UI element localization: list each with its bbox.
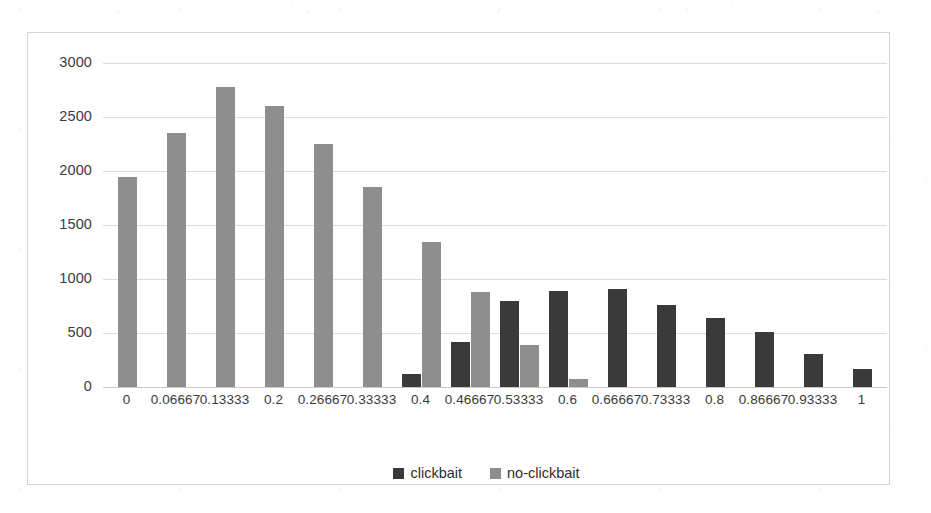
plot-area [103,63,887,387]
bar-clickbait [608,289,627,387]
y-axis-tick-label: 500 [68,324,93,340]
bar-clickbait [500,301,519,387]
x-axis-tick-label: 0.66667 [592,392,642,407]
bar-group [495,63,544,387]
x-axis-tick-label: 0.06667 [151,392,201,407]
x-axis-tick-label: 0.46667 [445,392,495,407]
x-axis-tick-labels: 00.066670.133330.20.266670.333330.40.466… [102,392,886,414]
bar-group [250,63,299,387]
bar-clickbait [451,342,470,387]
chart-legend: clickbaitno-clickbait [55,465,918,481]
y-axis-tick-label: 3000 [59,54,92,70]
bar-group [397,63,446,387]
x-axis-tick-label: 0.33333 [347,392,397,407]
x-axis-tick-label: 0.13333 [200,392,250,407]
y-axis-tick-label: 2000 [59,162,92,178]
bar-group [152,63,201,387]
legend-entry-clickbait[interactable]: clickbait [393,465,462,481]
bar-group [593,63,642,387]
y-axis-tick-label: 0 [84,378,92,394]
bar-group [544,63,593,387]
x-axis-tick-label: 0 [123,392,131,407]
bar-no-clickbait [118,177,137,387]
bar-clickbait [549,291,568,387]
bar-group [446,63,495,387]
bar-group [740,63,789,387]
y-axis-tick-label: 1000 [59,270,92,286]
x-axis-tick-label: 0.93333 [788,392,838,407]
bar-no-clickbait [265,106,284,387]
bar-no-clickbait [314,144,333,387]
bar-clickbait [755,332,774,387]
legend-entry-noclickbait[interactable]: no-clickbait [490,465,580,481]
x-axis-tick-label: 0.4 [411,392,430,407]
y-axis-tick-label: 1500 [59,216,92,232]
x-axis-tick-label: 0.8 [705,392,724,407]
x-axis-tick-label: 0.26667 [298,392,348,407]
bar-clickbait [657,305,676,387]
x-axis-tick-label: 1 [858,392,866,407]
legend-swatch-icon [490,468,501,479]
chart-frame: clickbaitno-clickbait [27,32,890,485]
bar-clickbait [706,318,725,387]
bar-group [642,63,691,387]
bar-clickbait [853,369,872,387]
y-axis-tick-label: 2500 [59,108,92,124]
x-axis-tick-label: 0.6 [558,392,577,407]
bar-no-clickbait [216,87,235,387]
bar-group [789,63,838,387]
bar-clickbait [804,354,823,387]
bar-group [348,63,397,387]
bar-clickbait [402,374,421,387]
bar-group [299,63,348,387]
legend-label: clickbait [410,465,462,481]
gridline [103,387,887,388]
legend-swatch-icon [393,468,404,479]
bar-group [201,63,250,387]
bar-group [691,63,740,387]
bar-no-clickbait [422,242,441,387]
legend-label: no-clickbait [507,465,580,481]
bar-no-clickbait [569,379,588,387]
x-axis-tick-label: 0.73333 [641,392,691,407]
bar-group [838,63,887,387]
bar-no-clickbait [471,292,490,387]
x-axis-tick-label: 0.2 [264,392,283,407]
bar-group [103,63,152,387]
bar-no-clickbait [520,345,539,387]
bar-no-clickbait [363,187,382,387]
bar-no-clickbait [167,133,186,387]
x-axis-tick-label: 0.53333 [494,392,544,407]
y-axis-tick-labels: 050010001500200025003000 [27,32,102,356]
x-axis-tick-label: 0.86667 [739,392,789,407]
